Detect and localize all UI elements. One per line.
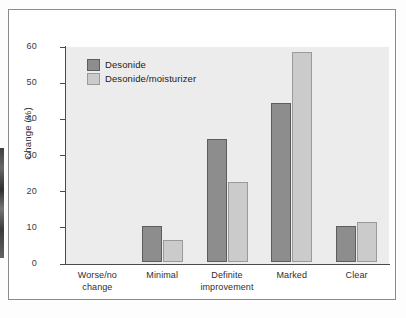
- bar-marked-desonide-moisturizer: [292, 52, 312, 262]
- x-axis-line: [65, 264, 390, 265]
- bar-clear-desonide: [336, 226, 356, 262]
- y-axis-tick-mark: [60, 264, 65, 265]
- x-axis-label-clear: Clear: [324, 270, 389, 282]
- x-axis-label-definite-improvement: Definiteimprovement: [195, 270, 260, 293]
- x-axis-label-minimal: Minimal: [130, 270, 195, 282]
- y-axis-title: Change (%): [22, 89, 33, 179]
- chart-frame: 0102030405060 Change (%) Worse/nochangeM…: [8, 9, 396, 300]
- x-axis-label-marked: Marked: [259, 270, 324, 282]
- y-axis-tick-label: 10: [27, 223, 37, 232]
- chart-legend: DesonideDesonide/moisturizer: [87, 58, 196, 86]
- bar-minimal-desonide-moisturizer: [163, 240, 183, 262]
- y-axis-tick-mark: [60, 191, 65, 192]
- figure-canvas: 0102030405060 Change (%) Worse/nochangeM…: [0, 0, 406, 318]
- y-axis-tick-mark: [60, 83, 65, 84]
- y-axis-tick-label: 0: [32, 259, 37, 268]
- x-axis-label-line: Clear: [324, 270, 389, 282]
- x-axis-label-worse-no-change: Worse/nochange: [65, 270, 130, 293]
- y-axis-tick-label: 20: [27, 187, 37, 196]
- y-axis-tick-mark: [60, 227, 65, 228]
- x-axis-label-line: Marked: [259, 270, 324, 282]
- bar-clear-desonide-moisturizer: [357, 222, 377, 262]
- x-axis-label-line: Minimal: [130, 270, 195, 282]
- x-axis-label-line: Worse/no: [65, 270, 130, 282]
- legend-label: Desonide: [105, 59, 146, 70]
- x-axis-label-line: Definite: [195, 270, 260, 282]
- x-axis-label-line: change: [65, 282, 130, 294]
- y-axis-line: [65, 46, 66, 265]
- scan-edge-artifact: [0, 148, 4, 258]
- y-axis-tick-label: 60: [27, 42, 37, 51]
- bar-definite-improvement-desonide-moisturizer: [228, 182, 248, 262]
- y-axis-tick-label: 50: [27, 78, 37, 87]
- y-axis-tick-mark: [60, 155, 65, 156]
- bar-definite-improvement-desonide: [207, 139, 227, 262]
- legend-label: Desonide/moisturizer: [105, 73, 196, 84]
- legend-item-desonide: Desonide: [87, 58, 196, 71]
- x-axis-label-line: improvement: [195, 282, 260, 294]
- legend-swatch-icon: [87, 73, 100, 85]
- bar-minimal-desonide: [142, 226, 162, 262]
- legend-swatch-icon: [87, 59, 100, 71]
- legend-item-desonide-moisturizer: Desonide/moisturizer: [87, 72, 196, 85]
- y-axis-tick-mark: [60, 119, 65, 120]
- bar-marked-desonide: [271, 103, 291, 262]
- y-axis-tick-mark: [60, 47, 65, 48]
